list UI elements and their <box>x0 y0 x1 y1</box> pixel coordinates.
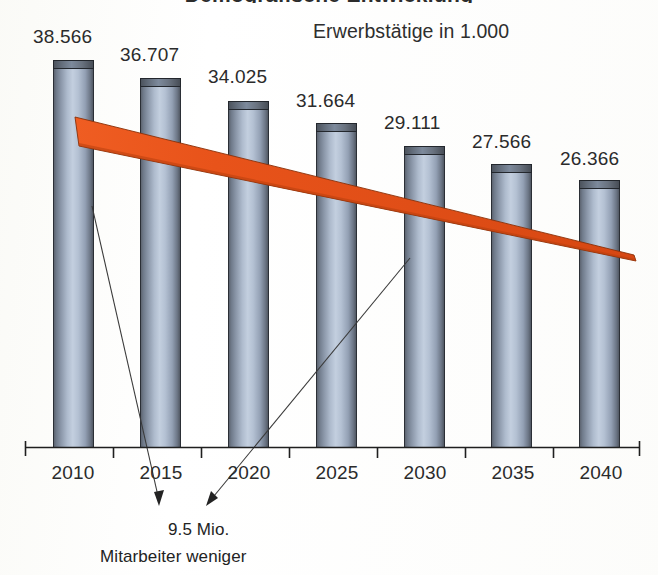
x-tick-label-2015: 2015 <box>117 462 205 484</box>
x-tick-label-2030: 2030 <box>381 462 469 484</box>
x-tick-label-2025: 2025 <box>293 462 381 484</box>
x-tick-label-2020: 2020 <box>205 462 293 484</box>
leader-arrow-left-icon <box>154 490 164 506</box>
x-tick-label-2010: 2010 <box>29 462 117 484</box>
plot-area: 38.566 36.707 34.025 31.664 29.111 27.56… <box>0 0 658 575</box>
value-label-2035: 27.566 <box>472 131 531 153</box>
chart-figure: Demografische Entwicklung Erwerbstätige … <box>0 0 658 575</box>
value-label-2015: 36.707 <box>120 44 179 66</box>
value-label-2030: 29.111 <box>384 112 441 134</box>
annotation-value: 9.5 Mio. <box>168 520 229 540</box>
chart-overlay <box>0 0 658 575</box>
decline-wedge-icon <box>75 117 636 261</box>
x-axis-ticks <box>26 441 640 458</box>
value-label-2020: 34.025 <box>208 66 267 88</box>
leader-line-left <box>92 206 158 496</box>
value-label-2025: 31.664 <box>296 90 355 112</box>
leader-line-right <box>214 258 410 496</box>
value-label-2040: 26.366 <box>560 148 619 170</box>
x-tick-label-2035: 2035 <box>469 462 557 484</box>
x-tick-label-2040: 2040 <box>557 462 645 484</box>
value-label-2010: 38.566 <box>33 26 92 48</box>
annotation-caption: Mitarbeiter weniger <box>100 547 246 567</box>
decline-wedge-shadow <box>79 143 636 261</box>
